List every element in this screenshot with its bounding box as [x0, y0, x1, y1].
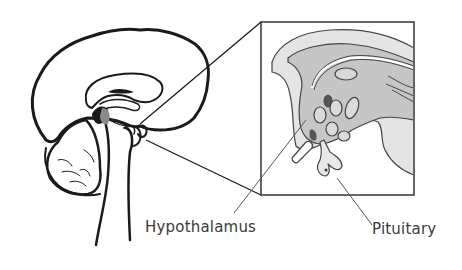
brainstem: [96, 118, 132, 245]
inset-nucleus-2: [330, 100, 342, 116]
ventricle-dark: [108, 89, 134, 94]
hypothalamus-label: Hypothalamus: [145, 218, 256, 236]
connector-bottom: [146, 140, 261, 195]
pituitary-label: Pituitary: [372, 220, 436, 238]
cerebellum-folia: [58, 150, 94, 186]
inset-nucleus-upper: [335, 68, 357, 80]
brain-sagittal-view: [32, 29, 208, 245]
inset-nucleus-5: [338, 131, 350, 141]
inset-nucleus-4: [326, 122, 338, 136]
inset-nucleus-1: [314, 107, 326, 123]
inset-panel: [261, 22, 414, 195]
